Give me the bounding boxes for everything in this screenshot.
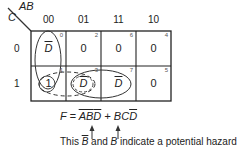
col-header-00: 00	[31, 14, 66, 25]
row-variable-label: C	[8, 11, 16, 23]
kmap-cell-2: 2 0	[66, 31, 101, 66]
row-header-1: 1	[14, 78, 20, 89]
cell-value: 0	[136, 42, 171, 54]
cell-index: 3	[95, 67, 98, 73]
cell-index: 5	[165, 67, 168, 73]
row-header-0: 0	[14, 43, 20, 54]
arrow-up-icon	[116, 125, 121, 131]
cell-index: 7	[130, 67, 133, 73]
cell-value: D	[101, 77, 136, 89]
kmap-cell-7: 7 D	[101, 66, 136, 101]
boolean-equation: F = ABD + BCD	[60, 110, 137, 122]
kmap-cell-4: 4 0	[136, 31, 171, 66]
cell-index: 2	[95, 32, 98, 38]
col-header-01: 01	[66, 14, 101, 25]
col-header-11: 11	[101, 14, 136, 25]
kmap-cell-5: 5 0	[136, 66, 171, 101]
hazard-caption: This B and B indicate a potential hazard	[60, 136, 237, 147]
cell-value: D	[31, 42, 66, 54]
cell-value: 1	[31, 77, 66, 89]
cell-value: D	[66, 77, 101, 89]
kmap-cell-6: 6 0	[101, 31, 136, 66]
kmap-cell-0: 0 D	[31, 31, 66, 66]
col-variable-label: AB	[19, 0, 34, 12]
kmap-cell-1: 1 1	[31, 66, 66, 101]
cell-value: 0	[66, 42, 101, 54]
kmap-cell-3: 3 D	[66, 66, 101, 101]
cell-index: 0	[60, 32, 63, 38]
cell-value: 0	[136, 77, 171, 89]
col-header-10: 10	[136, 14, 171, 25]
arrow-up-icon	[90, 125, 95, 131]
cell-index: 1	[60, 67, 63, 73]
cell-index: 6	[130, 32, 133, 38]
cell-value: 0	[101, 42, 136, 54]
cell-index: 4	[165, 32, 168, 38]
